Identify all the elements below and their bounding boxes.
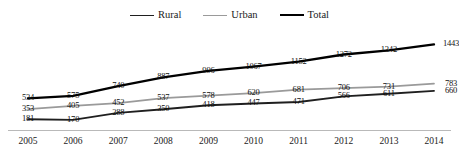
- data-label-total-2011: 1152: [291, 56, 307, 65]
- data-label-total-2012: 1272: [336, 49, 352, 58]
- data-label-rural-2010: 447: [247, 98, 259, 107]
- chart-figure: Rural Urban Total 5345757408879961067115…: [0, 0, 459, 154]
- x-tick-2005: 2005: [19, 137, 38, 147]
- data-label-urban-2008: 537: [157, 93, 169, 102]
- legend-swatch-urban: [203, 15, 227, 16]
- data-label-urban-2007: 452: [112, 98, 124, 107]
- x-axis-tick-labels: 2005200620072008200920102011201220132014: [0, 133, 459, 153]
- data-label-total-2007: 740: [112, 81, 124, 90]
- data-label-total-2006: 575: [67, 90, 79, 99]
- x-tick-2008: 2008: [154, 137, 173, 147]
- x-tick-2013: 2013: [379, 137, 398, 147]
- x-tick-2006: 2006: [64, 137, 83, 147]
- data-label-rural-2009: 418: [202, 100, 214, 109]
- data-label-rural-2005: 181: [22, 114, 34, 123]
- legend-item-total: Total: [280, 10, 329, 21]
- legend-label-rural: Rural: [158, 10, 181, 21]
- data-label-total-2010: 1067: [245, 61, 261, 70]
- data-label-urban-2010: 620: [247, 88, 259, 97]
- legend-swatch-rural: [130, 15, 154, 16]
- x-tick-2010: 2010: [244, 137, 263, 147]
- data-label-total-2008: 887: [157, 72, 169, 81]
- x-tick-2009: 2009: [199, 137, 218, 147]
- data-label-rural-2012: 566: [338, 91, 350, 100]
- data-label-total-2005: 534: [22, 93, 34, 102]
- x-tick-2007: 2007: [109, 137, 128, 147]
- data-label-total-2013: 1342: [381, 45, 397, 54]
- data-label-total-2009: 996: [202, 65, 214, 74]
- data-label-urban-2011: 681: [293, 84, 305, 93]
- x-tick-2014: 2014: [425, 137, 444, 147]
- legend-item-urban: Urban: [203, 10, 257, 21]
- data-label-urban-2005: 353: [22, 104, 34, 113]
- data-label-total-2014: 1443: [443, 39, 459, 48]
- legend-item-rural: Rural: [130, 10, 181, 21]
- series-line-total: [28, 44, 434, 98]
- data-label-rural-2014: 660: [445, 85, 457, 94]
- data-label-urban-2009: 578: [202, 90, 214, 99]
- data-label-rural-2007: 288: [112, 107, 124, 116]
- x-axis-line: [8, 130, 451, 131]
- x-tick-2012: 2012: [334, 137, 353, 147]
- data-label-rural-2006: 170: [67, 114, 79, 123]
- legend-label-total: Total: [308, 10, 329, 21]
- chart-legend: Rural Urban Total: [0, 6, 459, 24]
- data-label-urban-2006: 405: [67, 100, 79, 109]
- legend-label-urban: Urban: [231, 10, 257, 21]
- x-tick-2011: 2011: [289, 137, 308, 147]
- data-label-rural-2011: 471: [293, 97, 305, 106]
- data-label-rural-2008: 350: [157, 104, 169, 113]
- legend-swatch-total: [280, 14, 304, 16]
- data-label-rural-2013: 611: [383, 88, 395, 97]
